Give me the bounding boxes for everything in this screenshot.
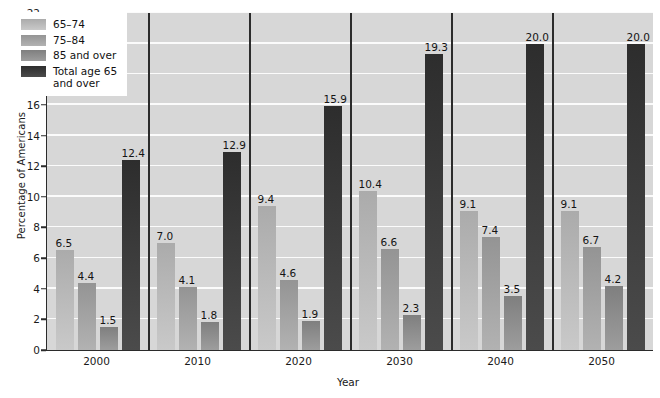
bar-chart: Percentage of Americans 0246810121416182… [0,0,660,398]
bar-value-label: 1.5 [100,315,117,326]
bar-value-label: 19.3 [425,42,448,53]
bar[interactable]: 9.1 [561,211,579,350]
y-tick-label: 16 [27,99,40,111]
x-tick-label: 2000 [83,355,110,367]
group-separator [552,13,554,350]
plot-area: 6.54.41.512.47.04.11.812.99.44.61.915.91… [46,13,653,351]
legend-swatch [21,50,46,61]
bar[interactable]: 4.6 [280,280,298,350]
bar-value-label: 4.4 [78,271,95,282]
bar-value-label: 6.6 [381,237,398,248]
bar-group: 9.44.61.915.9 [249,13,350,350]
x-axis-ticks: 200020102020203020402050 [46,355,652,373]
bar[interactable]: 12.4 [122,160,140,350]
bar-value-label: 9.1 [561,199,578,210]
legend: 65–7475–8485 and overTotal age 65 and ov… [14,12,127,96]
bar-value-label: 2.3 [403,303,420,314]
y-tick-label: 2 [33,313,40,325]
y-tick-label: 6 [33,252,40,264]
y-tick-label: 4 [33,283,40,295]
x-tick-label: 2030 [386,355,413,367]
bar[interactable]: 9.1 [460,211,478,350]
y-tick-label: 14 [27,130,40,142]
bar-group: 9.17.43.520.0 [451,13,552,350]
group-separator [249,13,251,350]
bar-value-label: 20.0 [526,32,549,43]
bar-value-label: 4.2 [605,274,622,285]
bar-groups: 6.54.41.512.47.04.11.812.99.44.61.915.91… [47,13,653,350]
x-axis-title: Year [44,376,652,388]
bars: 9.16.74.220.0 [552,13,653,350]
bar[interactable]: 10.4 [359,191,377,350]
legend-label: 85 and over [53,49,116,62]
x-tick-label: 2040 [487,355,514,367]
bar-value-label: 6.5 [56,238,73,249]
bars: 9.17.43.520.0 [451,13,552,350]
bar-value-label: 12.4 [122,148,145,159]
bar[interactable]: 4.4 [78,283,96,350]
bar-value-label: 4.1 [179,275,196,286]
bar-value-label: 7.4 [482,225,499,236]
bar[interactable]: 9.4 [258,206,276,350]
group-separator [451,13,453,350]
legend-label: Total age 65 and over [53,65,117,90]
bar[interactable]: 19.3 [425,54,443,350]
bar[interactable]: 4.2 [605,286,623,350]
bar-value-label: 15.9 [324,94,347,105]
y-tick-label: 8 [33,221,40,233]
bar-value-label: 10.4 [359,179,382,190]
bar-group: 10.46.62.319.3 [350,13,451,350]
x-tick-label: 2020 [285,355,312,367]
legend-label: 75–84 [53,34,85,47]
bar[interactable]: 7.0 [157,243,175,350]
group-separator [350,13,352,350]
legend-label: 65–74 [53,18,85,31]
bar[interactable]: 6.6 [381,249,399,350]
bar-value-label: 20.0 [627,32,650,43]
bar-value-label: 9.1 [460,199,477,210]
bar-value-label: 7.0 [157,231,174,242]
group-separator [148,13,150,350]
legend-item[interactable]: 75–84 [21,34,117,47]
bar-value-label: 9.4 [258,194,275,205]
bars: 9.44.61.915.9 [249,13,350,350]
bar[interactable]: 6.7 [583,247,601,350]
y-tick-label: 10 [27,191,40,203]
bar[interactable]: 12.9 [223,152,241,350]
x-tick-label: 2050 [588,355,615,367]
bar[interactable]: 1.5 [100,327,118,350]
bar-value-label: 3.5 [504,284,521,295]
y-tick-label: 12 [27,160,40,172]
bar-value-label: 4.6 [280,268,297,279]
bar[interactable]: 6.5 [56,250,74,350]
bar-group: 7.04.11.812.9 [148,13,249,350]
bar[interactable]: 3.5 [504,296,522,350]
y-tick-label: 0 [33,344,40,356]
legend-swatch [21,35,46,46]
bar[interactable]: 20.0 [526,44,544,350]
bar[interactable]: 1.8 [201,322,219,350]
bar[interactable]: 20.0 [627,44,645,350]
bar-value-label: 1.8 [201,310,218,321]
bar-value-label: 12.9 [223,140,246,151]
legend-item[interactable]: 85 and over [21,49,117,62]
bar[interactable]: 1.9 [302,321,320,350]
bar[interactable]: 4.1 [179,287,197,350]
legend-swatch [21,19,46,30]
bars: 10.46.62.319.3 [350,13,451,350]
legend-item[interactable]: 65–74 [21,18,117,31]
legend-swatch [21,66,46,77]
x-tick-label: 2010 [184,355,211,367]
bar[interactable]: 15.9 [324,106,342,350]
bar[interactable]: 7.4 [482,237,500,350]
legend-item[interactable]: Total age 65 and over [21,65,117,90]
bar-value-label: 6.7 [583,235,600,246]
bars: 7.04.11.812.9 [148,13,249,350]
bar[interactable]: 2.3 [403,315,421,350]
bar-value-label: 1.9 [302,309,319,320]
bar-group: 9.16.74.220.0 [552,13,653,350]
